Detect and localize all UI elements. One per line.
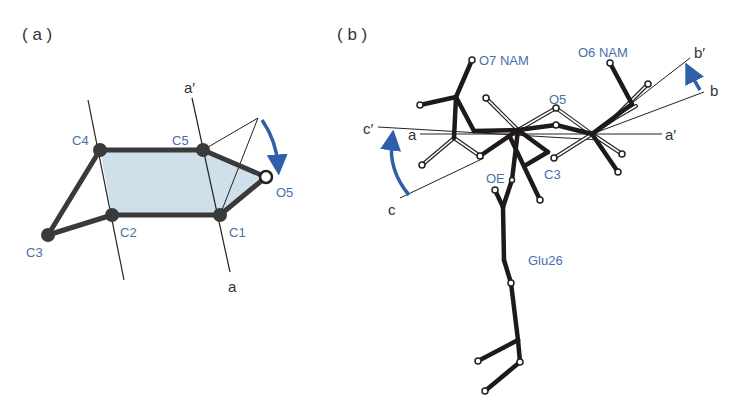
axis-label-b-prime: b′ [694,44,705,61]
rotation-arrow-b-icon [690,72,700,90]
label-o7-nam: O7 NAM [479,53,529,68]
rotation-arrow-c-icon [391,140,409,195]
panel-b: ( b ) [337,25,718,394]
label-c3: C3 [544,167,561,182]
label-o5: O5 [276,185,293,200]
atom-c1 [213,208,227,222]
atom-nodes [417,57,651,394]
ring-plane-fill [100,150,266,215]
atom-o5 [260,171,272,183]
axis-label-a-prime: a′ [184,79,195,96]
ref-line-c5 [203,118,258,150]
panel-a: ( a ) C4 C5 C1 C2 C3 O5 [22,25,293,295]
axis-label-a-prime: a′ [665,126,676,143]
atom-c3 [41,228,55,242]
label-c5: C5 [172,133,189,148]
label-o6-nam: O6 NAM [578,45,628,60]
label-c1: C1 [229,225,246,240]
label-o5: O5 [549,92,566,107]
label-c4: C4 [72,133,89,148]
solid-bonds [420,60,632,391]
label-c2: C2 [120,225,137,240]
rotation-arrow-icon [262,120,278,165]
axis-line-b [592,92,704,134]
axis-label-c: c [388,201,396,218]
label-c3: C3 [26,245,43,260]
atom-c5 [196,143,210,157]
atom-c2 [105,208,119,222]
axis-label-a-left: a [408,126,417,143]
panel-b-label: ( b ) [337,25,367,44]
axis-label-b: b [710,82,718,99]
axis-line-c [400,158,484,198]
label-glu26: Glu26 [528,253,563,268]
axis-label-c-prime: c′ [363,120,374,137]
axis-label-a: a [228,278,237,295]
atom-c4 [93,143,107,157]
label-oe: OE [486,171,505,186]
figure-canvas: ( a ) C4 C5 C1 C2 C3 O5 [0,0,737,412]
panel-a-label: ( a ) [22,25,52,44]
